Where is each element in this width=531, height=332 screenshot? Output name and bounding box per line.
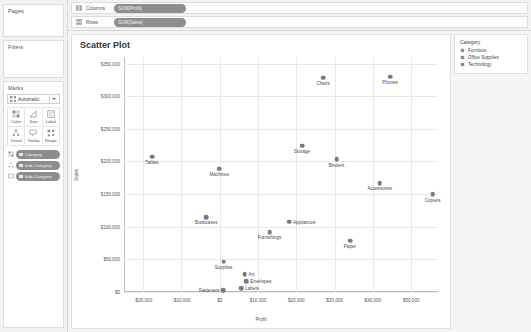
marks-color-label: Color (11, 119, 21, 124)
legend-title: Category (460, 39, 522, 45)
gridline-vertical (373, 57, 374, 292)
marks-pill-category[interactable]: Category (16, 150, 60, 159)
marks-pill-subcategory-label[interactable]: Sub-Category (16, 172, 60, 181)
scatter-point[interactable] (221, 259, 226, 264)
marks-pill-subcategory-detail[interactable]: Sub-Category (16, 161, 60, 170)
scatter-point[interactable] (300, 143, 305, 148)
mark-type-icon (10, 96, 16, 102)
scatter-point[interactable] (204, 215, 209, 220)
scatter-point-label: Chairs (316, 81, 329, 86)
gridline-vertical (296, 57, 297, 292)
pages-card[interactable]: Pages (3, 4, 64, 37)
marks-label-button[interactable]: Label (43, 108, 60, 127)
scatter-point[interactable] (244, 279, 249, 284)
gridline-vertical (181, 57, 182, 292)
y-axis-tick-label: $300,000 (101, 94, 120, 99)
marks-detail-button[interactable]: Detail (8, 127, 25, 146)
marks-pill-row[interactable]: Category (7, 150, 60, 159)
pill-field-icon (19, 175, 23, 179)
x-axis-title: Profit (255, 317, 266, 322)
gridline-horizontal (124, 129, 438, 130)
marks-label-label: Label (46, 119, 56, 124)
y-axis-tick-label: $200,000 (101, 159, 120, 164)
marks-size-button[interactable]: Size (25, 108, 42, 127)
scatter-point-label: Phones (382, 80, 398, 85)
x-axis[interactable]: -$20,000-$10,000$0$10,000$20,000$30,000$… (124, 294, 438, 308)
scatter-point[interactable] (239, 286, 244, 291)
color-icon (12, 110, 20, 118)
scatter-point[interactable] (287, 220, 292, 225)
scatter-point[interactable] (430, 192, 435, 197)
scatter-point[interactable] (348, 238, 353, 243)
gridline-horizontal (124, 227, 438, 228)
scatter-point[interactable] (217, 166, 222, 171)
marks-color-button[interactable]: Color (8, 108, 25, 127)
x-axis-tick-label: $40,000 (365, 298, 382, 303)
marks-tooltip-button[interactable]: Tooltip (25, 127, 42, 146)
y-axis-line (124, 57, 125, 292)
legend-item[interactable]: Furniture (460, 48, 522, 53)
gridline-vertical (335, 57, 336, 292)
scatter-point-label: Binders (329, 163, 345, 168)
x-axis-tick-label: $30,000 (326, 298, 343, 303)
scatter-point-label: Art (249, 272, 255, 277)
filters-card-title: Filters (4, 41, 63, 52)
filters-card[interactable]: Filters (3, 40, 64, 78)
scatter-point-label: Paper (344, 244, 356, 249)
marks-shape-button[interactable]: Shape (43, 127, 60, 146)
scatter-point[interactable] (150, 155, 155, 160)
gridline-horizontal (124, 194, 438, 195)
detail-icon (12, 129, 20, 137)
y-axis[interactable]: Sales $0$50,000$100,000$150,000$200,000$… (72, 57, 122, 292)
y-axis-tick-label: $0 (115, 290, 120, 295)
scatter-point[interactable] (242, 272, 247, 277)
legend-swatch (460, 48, 465, 53)
legend-item[interactable]: Office Supplies (460, 55, 522, 60)
columns-shelf[interactable]: Columns SUM(Profit) (71, 2, 528, 14)
label-icon (47, 110, 55, 118)
scatter-point[interactable] (267, 230, 272, 235)
y-axis-tick-label: $100,000 (101, 224, 120, 229)
page-title: Scatter Plot (72, 35, 450, 50)
scatter-point[interactable] (221, 288, 226, 293)
chevron-down-icon[interactable] (49, 95, 57, 103)
pill-field-icon (19, 164, 23, 168)
scatter-point-label: Bookcases (195, 220, 217, 225)
plot-area[interactable]: ChairsPhonesStorageBindersTablesMachines… (124, 57, 438, 292)
rows-pill-sales[interactable]: SUM(Sales) (114, 18, 186, 27)
x-axis-tick-label: $0 (217, 298, 222, 303)
marks-card-title: Marks (4, 82, 63, 93)
marks-detail-label: Detail (11, 138, 22, 143)
mark-type-dropdown[interactable]: Automatic (7, 94, 60, 104)
columns-icon (76, 5, 82, 11)
marks-pill-row[interactable]: Sub-Category (7, 172, 60, 181)
scatter-plot-viz[interactable]: Scatter Plot Sales $0$50,000$100,000$150… (71, 34, 451, 329)
scatter-point[interactable] (321, 76, 326, 81)
scatter-point[interactable] (334, 157, 339, 162)
rows-icon (76, 19, 82, 25)
y-axis-title: Sales (74, 169, 79, 181)
y-axis-tick-label: $50,000 (103, 257, 120, 262)
shape-icon (47, 129, 55, 137)
shelf-area: Columns SUM(Profit) Rows SUM(Sales) (68, 0, 531, 31)
legend-swatch (460, 62, 465, 67)
rows-shelf[interactable]: Rows SUM(Sales) (71, 16, 528, 28)
mark-type-label: Automatic (18, 97, 47, 102)
gridline-vertical (258, 57, 259, 292)
legend-item[interactable]: Technology (460, 62, 522, 67)
legend-category[interactable]: Category FurnitureOffice SuppliesTechnol… (454, 34, 528, 74)
marks-pill-row[interactable]: Sub-Category (7, 161, 60, 170)
detail-icon (7, 162, 14, 169)
x-axis-tick-label: -$10,000 (172, 298, 190, 303)
gridline-vertical (143, 57, 144, 292)
rows-pill-text: SUM(Sales) (118, 20, 143, 25)
scatter-point[interactable] (377, 181, 382, 186)
gridline-horizontal (124, 259, 438, 260)
scatter-point-label: Envelopes (250, 279, 271, 284)
scatter-point-label: Furnishings (258, 235, 282, 240)
marks-card[interactable]: Marks Automatic Color (3, 81, 64, 328)
scatter-point-label: Appliances (293, 219, 315, 224)
columns-pill-profit[interactable]: SUM(Profit) (114, 4, 186, 13)
workspace: Columns SUM(Profit) Rows SUM(Sales) S (68, 0, 531, 332)
scatter-point[interactable] (388, 74, 393, 79)
